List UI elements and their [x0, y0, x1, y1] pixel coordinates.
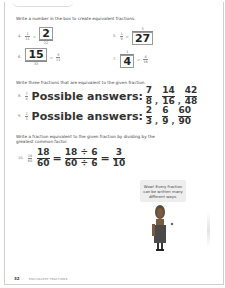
question-4: 4. 111 = 2 22: [18, 27, 53, 45]
answer-box[interactable]: 15: [25, 48, 46, 61]
question-number: 6.: [18, 55, 21, 59]
answer-fraction: 1416: [162, 86, 175, 106]
given-fraction: 511: [56, 53, 60, 62]
copyright-strip: [207, 212, 210, 248]
result-fraction: 310: [113, 148, 126, 168]
answer-fraction: 1 4: [120, 50, 134, 68]
given-fraction: 1860: [28, 154, 32, 163]
given-fraction: 19: [120, 32, 122, 41]
section3-instruction: Write a fraction equivalent to the given…: [16, 134, 166, 144]
question-6: 6. 15 33 = 511: [18, 48, 60, 66]
answer-fraction: 4248: [185, 86, 198, 106]
answer-fraction: 78: [146, 86, 152, 106]
answer-box[interactable]: 4: [120, 55, 134, 68]
question-9: 9. 23 Possible answers: 23, 69, 6090: [18, 106, 192, 126]
question-number: 10.: [18, 156, 24, 160]
step2-fraction: 18 ÷ 660 ÷ 6: [65, 148, 98, 168]
step1-fraction: 1860: [37, 148, 50, 168]
answer-fraction: 3 27: [132, 27, 153, 45]
answer-box[interactable]: 2: [39, 27, 53, 40]
answer-fraction: 2 22: [39, 27, 53, 45]
header-decoration: [13, 2, 73, 7]
question-number: 7.: [113, 57, 116, 61]
question-5: 5. 19 = 3 27: [113, 27, 153, 45]
question-10: 10. 1860 1860 = 18 ÷ 660 ÷ 6 = 310: [18, 148, 126, 168]
answer-fraction: 69: [162, 106, 168, 126]
given-fraction: 78: [25, 92, 27, 101]
question-number: 4.: [18, 34, 21, 38]
answer-label: Possible answers:: [32, 110, 143, 123]
answer-fraction: 23: [146, 106, 152, 126]
answer-fraction: 6090: [178, 106, 191, 126]
answer-fraction: 15 33: [25, 48, 46, 66]
section1-instruction: Write a number in the box to create equi…: [16, 16, 135, 21]
question-number: 9.: [18, 114, 21, 118]
given-fraction: 23: [25, 112, 27, 121]
given-fraction: 111: [25, 32, 29, 41]
answer-box[interactable]: 27: [132, 32, 153, 45]
character-icon: [148, 204, 178, 254]
question-8: 8. 78 Possible answers: 78, 1416, 4248: [18, 86, 198, 106]
given-fraction: 416: [143, 55, 147, 64]
answer-label: Possible answers:: [32, 90, 143, 103]
question-number: 5.: [113, 34, 116, 38]
speech-bubble: Wow! Every fraction can be written many …: [140, 180, 186, 202]
page-number: 32: [14, 276, 20, 281]
question-7: 7. 1 4 = 416: [113, 50, 148, 68]
question-number: 8.: [18, 94, 21, 98]
section2-instruction: Write three fractions that are equivalen…: [16, 80, 146, 85]
footer-title: EQUIVALENT FRACTIONS: [29, 277, 67, 281]
